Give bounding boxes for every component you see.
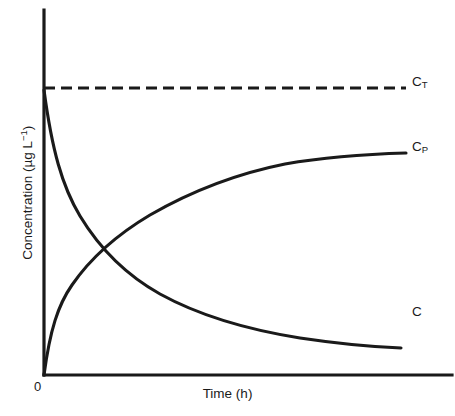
series-label-ct-subscript: T [422,79,428,90]
series-label-c-base: C [412,304,422,319]
series-label-cp-base: C [412,139,422,154]
y-axis-label-text: Concentration (µg L [20,141,35,260]
series-label-cp: CP [412,140,428,154]
series-label-cp-subscript: P [422,144,428,155]
y-axis-label-exponent: −1 [18,130,29,141]
series-line-cp [44,153,406,375]
y-axis-label: Concentration (µg L−1) [21,93,35,293]
series-label-ct-base: C [412,74,422,89]
series-label-ct: CT [412,75,428,89]
series-label-c: C [412,305,422,319]
chart-plot-area [0,0,455,416]
chart-figure: CT CP C 0 Time (h) Concentration (µg L−1… [0,0,455,416]
series-line-c [44,90,401,348]
x-axis-label: Time (h) [0,387,455,401]
